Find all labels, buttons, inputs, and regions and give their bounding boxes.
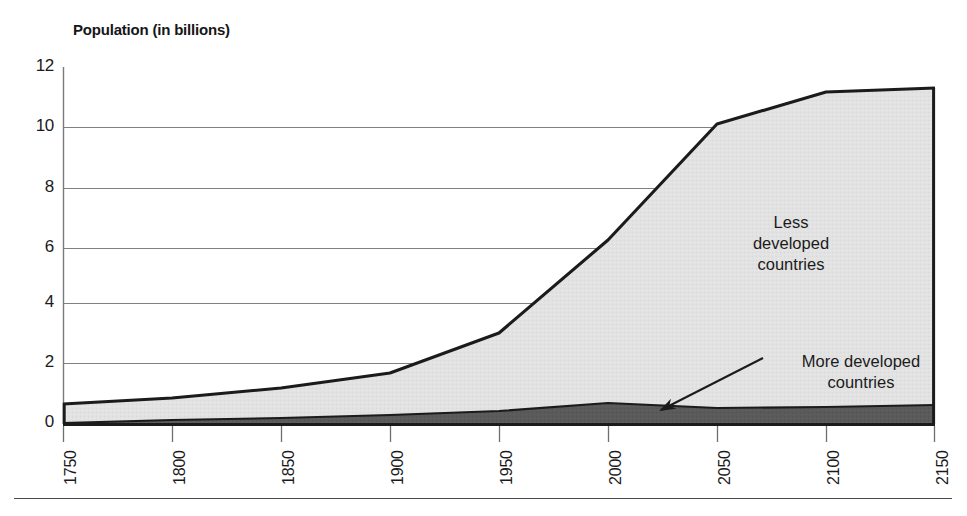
caption-divider (14, 498, 952, 499)
annotation-more-developed-countries: More developed countries (766, 351, 956, 393)
population-projection-figure: Population (in billions) 12 10 8 6 4 2 0… (0, 0, 967, 516)
x-axis-ticks (64, 426, 935, 442)
annotation-less-developed-countries: Less developed countries (716, 212, 866, 275)
caption-fragment (16, 504, 166, 515)
